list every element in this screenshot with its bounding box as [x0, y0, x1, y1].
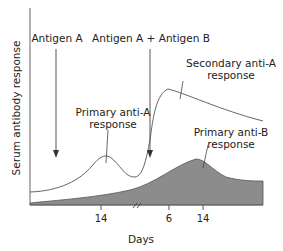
- primary-a-label: Primary anti-A: [76, 106, 152, 118]
- x-axis-label: Days: [128, 233, 154, 245]
- callout-line: [180, 81, 183, 99]
- x-tick-label: 6: [166, 213, 172, 224]
- x-tick-label: 14: [95, 213, 108, 224]
- arrowhead-icon: [53, 150, 59, 158]
- anti-b-area: [30, 159, 263, 205]
- x-tick-label: 14: [197, 213, 210, 224]
- antibody-response-chart: 14 6 14 Days Serum antibody response Ant…: [0, 0, 283, 251]
- arrowhead-icon: [147, 150, 153, 158]
- callout-line: [106, 130, 108, 163]
- y-axis-label: Serum antibody response: [10, 41, 22, 176]
- secondary-a-label-2: response: [207, 69, 255, 81]
- primary-a-label-2: response: [89, 118, 137, 130]
- antigen-a-label: Antigen A: [31, 32, 83, 44]
- secondary-a-label: Secondary anti-A: [186, 57, 277, 69]
- primary-b-label-2: response: [207, 138, 255, 150]
- primary-b-label: Primary anti-B: [194, 126, 269, 138]
- antigen-ab-label: Antigen A + Antigen B: [92, 32, 210, 44]
